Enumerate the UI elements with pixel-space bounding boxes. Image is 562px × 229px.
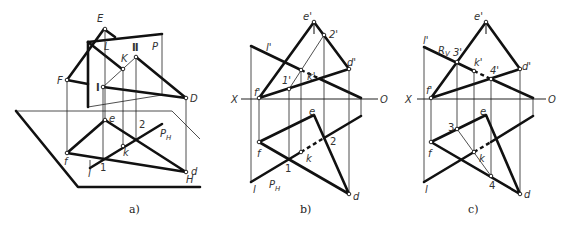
triangle-edge-fd-part xyxy=(67,80,88,84)
label-PH: PH xyxy=(160,128,172,142)
label-f: f xyxy=(428,148,433,159)
descriptive-geometry-figure: E L Ⅱ P K F Ⅰ D e f 2 PH k l 1 d H a) xyxy=(0,0,562,229)
label-2: 2 xyxy=(330,136,336,147)
label-l: l xyxy=(253,184,256,195)
label-f: f xyxy=(64,156,69,167)
label-1: 1 xyxy=(100,162,106,173)
label-I: Ⅰ xyxy=(96,82,100,93)
label-e: e xyxy=(480,106,486,117)
h-plane-back-edge xyxy=(16,111,200,139)
label-f: f xyxy=(257,148,262,159)
label-d-prime: d' xyxy=(522,61,531,72)
label-f-prime: f' xyxy=(426,85,432,96)
triangle-edge-fe xyxy=(67,29,115,80)
caption-b: b) xyxy=(300,203,311,216)
label-e: e xyxy=(309,106,315,117)
panel-a: E L Ⅱ P K F Ⅰ D e f 2 PH k l 1 d H a) xyxy=(16,13,200,216)
label-O: O xyxy=(548,94,556,105)
label-K: K xyxy=(121,53,129,64)
label-P: P xyxy=(152,41,159,52)
label-d: d xyxy=(524,189,531,200)
label-O: O xyxy=(380,94,388,105)
label-II: Ⅱ xyxy=(132,42,139,53)
label-L: L xyxy=(104,41,110,52)
label-4: 4 xyxy=(489,180,495,191)
panel-b: e' 2' l' k' 1' d' f' X O e f k 2 1 l PH … xyxy=(230,11,388,216)
label-e-prime: e' xyxy=(474,11,483,22)
label-d-prime: d' xyxy=(347,57,356,68)
label-3: 3 xyxy=(448,122,454,133)
label-1: 1 xyxy=(285,163,291,174)
label-d: d xyxy=(353,191,360,202)
line-rv-visible-2 xyxy=(491,79,533,98)
label-k: k xyxy=(479,153,486,164)
label-F: F xyxy=(57,75,63,86)
label-2: 2 xyxy=(139,119,145,130)
label-1-prime: 1' xyxy=(282,75,291,86)
line-1-2 xyxy=(103,57,136,87)
panel-c: e' l' RV 3' k' 4' d' f' X O e 3 f k 4 l … xyxy=(404,11,556,216)
label-l: l xyxy=(88,168,91,179)
label-l-prime: l' xyxy=(423,35,429,46)
label-X: X xyxy=(404,94,413,105)
label-PH: PH xyxy=(269,179,281,193)
caption-a: a) xyxy=(129,203,140,216)
label-k-prime: k' xyxy=(307,71,316,82)
label-l-prime: l' xyxy=(266,42,272,53)
label-e: e xyxy=(109,113,115,124)
label-4-prime: 4' xyxy=(490,65,499,76)
label-E: E xyxy=(97,13,104,24)
label-H: H xyxy=(186,174,194,185)
label-2-prime: 2' xyxy=(329,29,338,40)
label-k-prime: k' xyxy=(474,57,483,68)
label-k: k xyxy=(306,153,313,164)
label-f-prime: f' xyxy=(254,87,260,98)
label-D: D xyxy=(190,93,198,104)
label-l: l xyxy=(425,184,428,195)
label-3-prime: 3' xyxy=(453,47,462,58)
label-k: k xyxy=(123,147,130,158)
line-l-v-visible-2 xyxy=(320,79,361,98)
label-X: X xyxy=(230,94,239,105)
caption-c: c) xyxy=(468,203,478,216)
label-e-prime: e' xyxy=(303,11,312,22)
